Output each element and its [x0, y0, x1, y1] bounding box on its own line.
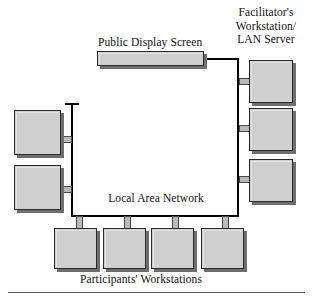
- facilitator-workstation-1[interactable]: [249, 60, 293, 103]
- participants-workstations-label: Participants' Workstations: [46, 273, 236, 287]
- lan-bus-display-spur: [203, 58, 239, 60]
- lan-bus-bottom-horizontal: [71, 215, 239, 217]
- participant-workstation-1[interactable]: [54, 228, 97, 269]
- node-highlight: [203, 230, 242, 267]
- facilitator-workstation-2[interactable]: [249, 108, 293, 151]
- node-highlight: [56, 230, 95, 267]
- public-display-screen-label: Public Display Screen: [98, 36, 216, 50]
- node-highlight: [251, 62, 291, 101]
- footer-rule: [8, 292, 305, 293]
- node-highlight: [99, 53, 202, 64]
- lan-bus-terminator-cap: [65, 103, 79, 105]
- node-highlight: [153, 230, 192, 267]
- left-workstation-2[interactable]: [14, 165, 61, 210]
- node-highlight: [251, 161, 291, 200]
- public-display-screen[interactable]: [97, 51, 204, 66]
- facilitator-workstation-label: Facilitator's Workstation/ LAN Server: [222, 6, 310, 47]
- local-area-network-label: Local Area Network: [76, 192, 236, 206]
- left-workstation-1[interactable]: [14, 110, 61, 155]
- node-highlight: [105, 230, 144, 267]
- node-highlight: [251, 110, 291, 149]
- network-diagram: Public Display Screen Facilitator's Work…: [0, 0, 312, 303]
- node-highlight: [16, 112, 59, 153]
- participant-workstation-3[interactable]: [151, 228, 194, 269]
- facilitator-workstation-3[interactable]: [249, 159, 293, 202]
- participant-workstation-4[interactable]: [201, 228, 244, 269]
- participant-workstation-2[interactable]: [103, 228, 146, 269]
- lan-bus-left-vertical: [71, 104, 73, 217]
- node-highlight: [16, 167, 59, 208]
